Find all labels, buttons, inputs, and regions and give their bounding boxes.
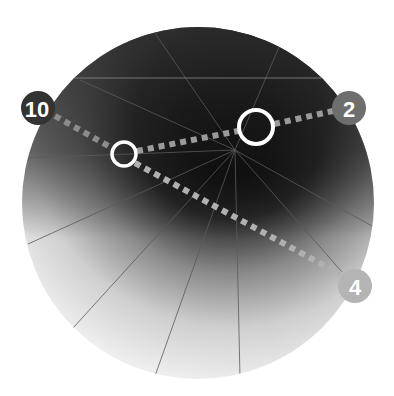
radial-diagram: 10 2 4 (0, 0, 394, 396)
diagram-canvas: 10 2 4 (0, 0, 394, 396)
label-badge-2[interactable]: 2 (332, 91, 366, 125)
label-badge-4[interactable]: 4 (338, 269, 372, 303)
badge-label: 10 (25, 97, 49, 122)
badge-label: 4 (349, 275, 362, 300)
label-badge-10[interactable]: 10 (21, 91, 55, 125)
badge-label: 2 (343, 97, 355, 122)
